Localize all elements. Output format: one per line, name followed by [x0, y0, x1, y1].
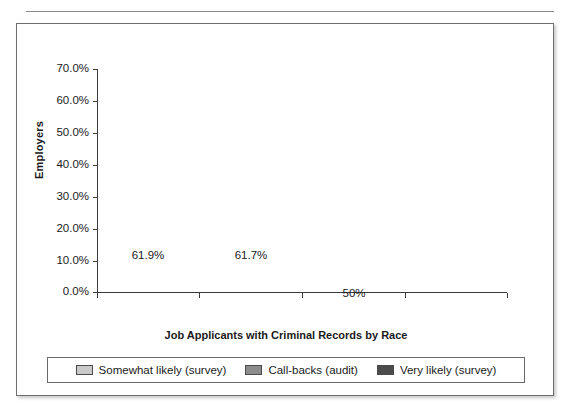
- y-tick-label: 60.0%: [25, 95, 89, 106]
- y-tick-label: 30.0%: [25, 191, 89, 202]
- bar-value-label: 61.9%: [108, 249, 188, 261]
- legend-item-very-likely[interactable]: Very likely (survey): [377, 364, 497, 376]
- y-axis-line: [97, 69, 98, 293]
- legend-item-call-backs[interactable]: Call-backs (audit): [245, 364, 357, 376]
- y-tick-label: 70.0%: [25, 63, 89, 74]
- y-tick-label: 10.0%: [25, 255, 89, 266]
- plot-area: Employers 70.0% 60.0% 50.0% 40.0% 30.0% …: [17, 24, 555, 397]
- legend-label: Somewhat likely (survey): [99, 364, 227, 376]
- legend-swatch-icon: [76, 365, 93, 375]
- legend-item-somewhat-likely[interactable]: Somewhat likely (survey): [76, 364, 227, 376]
- x-tick-mark: [97, 293, 98, 298]
- x-tick-mark: [199, 293, 200, 298]
- y-tick-label: 40.0%: [25, 159, 89, 170]
- y-tick-label: 0.0%: [25, 286, 89, 297]
- x-tick-mark: [302, 293, 303, 298]
- y-tick-label: 50.0%: [25, 127, 89, 138]
- x-tick-mark: [507, 293, 508, 298]
- x-tick-mark: [405, 293, 406, 298]
- legend-label: Very likely (survey): [400, 364, 497, 376]
- figure-container: Employers 70.0% 60.0% 50.0% 40.0% 30.0% …: [16, 23, 554, 396]
- legend-swatch-icon: [377, 365, 394, 375]
- legend-swatch-icon: [245, 365, 262, 375]
- bar-value-label: 50%: [314, 287, 394, 299]
- chart-legend: Somewhat likely (survey) Call-backs (aud…: [47, 357, 525, 383]
- y-tick-label: 20.0%: [25, 223, 89, 234]
- x-axis-title: Job Applicants with Criminal Records by …: [17, 329, 555, 341]
- legend-label: Call-backs (audit): [268, 364, 357, 376]
- bar-value-label: 61.7%: [211, 249, 291, 261]
- top-divider-rule: [26, 11, 554, 12]
